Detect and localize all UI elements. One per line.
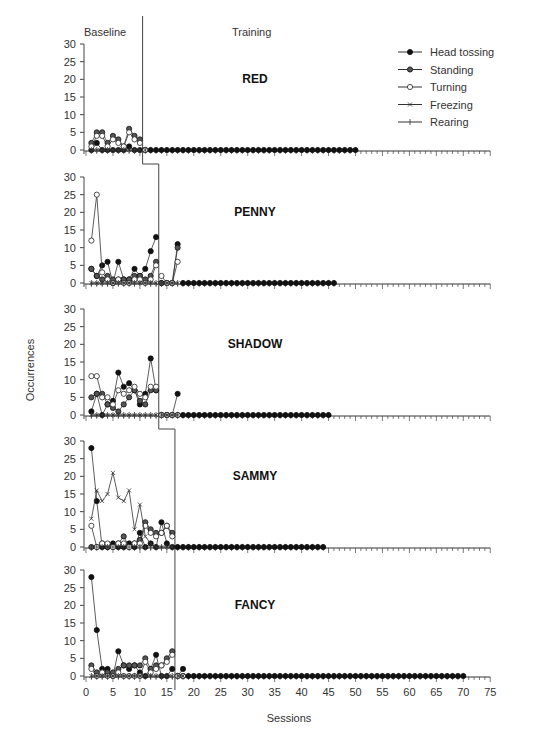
x-tick-label: 65 (430, 686, 442, 698)
data-point (105, 259, 110, 264)
data-point (159, 273, 164, 278)
data-point (445, 673, 450, 678)
x-tick-label: 75 (484, 686, 496, 698)
data-point (261, 412, 266, 417)
data-point (234, 544, 239, 549)
data-point (299, 544, 304, 549)
data-point (127, 388, 132, 393)
x-tick-label: 5 (110, 686, 116, 698)
data-point (310, 673, 315, 678)
x-tick-label: 55 (376, 686, 388, 698)
data-point (224, 280, 229, 285)
legend-item: Freezing (430, 99, 473, 111)
data-point (294, 673, 299, 678)
y-tick-label: 25 (64, 582, 76, 594)
data-point (116, 649, 121, 654)
data-point (315, 147, 320, 152)
data-point (213, 673, 218, 678)
panel-sammy: 051015202530SAMMY (64, 435, 491, 553)
data-point (148, 530, 153, 535)
y-tick-label: 10 (64, 635, 76, 647)
data-point (385, 673, 390, 678)
data-point (256, 280, 261, 285)
data-point (272, 280, 277, 285)
data-point (326, 147, 331, 152)
data-point (89, 266, 94, 271)
data-point (288, 544, 293, 549)
data-point (159, 520, 164, 525)
data-point (175, 147, 180, 152)
data-point (224, 673, 229, 678)
data-point (310, 412, 315, 417)
y-tick-label: 10 (64, 242, 76, 254)
data-point (180, 147, 185, 152)
data-point (407, 673, 412, 678)
legend-item: Rearing (430, 116, 469, 128)
data-point (272, 147, 277, 152)
data-point (132, 663, 137, 668)
data-point (213, 544, 218, 549)
y-tick-label: 25 (64, 453, 76, 465)
y-tick-label: 20 (64, 73, 76, 85)
data-point (321, 280, 326, 285)
data-point (461, 673, 466, 678)
data-point (202, 147, 207, 152)
data-point (450, 673, 455, 678)
data-point (294, 280, 299, 285)
data-point (175, 245, 180, 250)
data-point (110, 402, 115, 407)
data-point (283, 544, 288, 549)
data-point (391, 673, 396, 678)
data-point (89, 395, 94, 400)
data-point (159, 530, 164, 535)
y-tick-label: 15 (64, 488, 76, 500)
data-point (315, 673, 320, 678)
data-point (229, 544, 234, 549)
data-point (277, 673, 282, 678)
data-point (326, 673, 331, 678)
data-point (207, 412, 212, 417)
y-tick-label: 25 (64, 321, 76, 333)
x-tick-label: 40 (295, 686, 307, 698)
data-point (315, 544, 320, 549)
data-point (89, 445, 94, 450)
data-point (175, 259, 180, 264)
y-tick-label: 25 (64, 189, 76, 201)
data-point (256, 544, 261, 549)
data-point (315, 280, 320, 285)
data-point (170, 652, 175, 657)
data-point (229, 147, 234, 152)
legend-item: Turning (430, 81, 467, 93)
y-tick-label: 10 (64, 374, 76, 386)
data-point (218, 147, 223, 152)
data-point (299, 147, 304, 152)
data-point (143, 395, 148, 400)
y-axis-label: Occurrences (24, 338, 36, 401)
data-point (121, 384, 126, 389)
data-point (250, 280, 255, 285)
data-point (229, 412, 234, 417)
panel-red: 051015202530RED (64, 38, 491, 156)
data-point (267, 544, 272, 549)
data-point (218, 280, 223, 285)
data-point (180, 412, 185, 417)
series-line (91, 376, 156, 404)
data-point (331, 280, 336, 285)
data-point (342, 147, 347, 152)
data-point (299, 412, 304, 417)
data-point (277, 412, 282, 417)
data-point (143, 402, 148, 407)
data-point (153, 384, 158, 389)
data-point (245, 673, 250, 678)
data-point (153, 263, 158, 268)
data-point (261, 673, 266, 678)
data-point (234, 147, 239, 152)
data-point (100, 270, 105, 275)
multi-panel-line-chart: BaselineTrainingOccurrencesSessions05101… (0, 0, 539, 755)
x-tick-label: 35 (269, 686, 281, 698)
y-tick-label: 25 (64, 56, 76, 68)
data-point (321, 544, 326, 549)
data-point (321, 412, 326, 417)
legend: Head tossingStandingTurningFreezingReari… (398, 46, 494, 128)
data-point (213, 147, 218, 152)
